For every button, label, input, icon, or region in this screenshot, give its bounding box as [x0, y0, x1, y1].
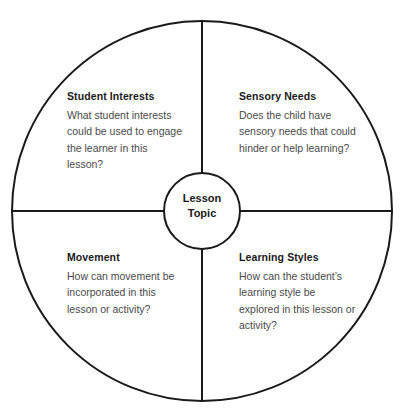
quadrant-movement: Movement How can movement be incorporate… [67, 251, 227, 317]
center-hub-label: Lesson Topic [164, 191, 240, 220]
lesson-planning-wheel-diagram: Student Interests What student interests… [0, 0, 404, 419]
cropped-text-artifact [18, 0, 88, 6]
hub-label-line-1: Lesson [164, 191, 240, 206]
quadrant-learning-styles: Learning Styles How can the student’s le… [239, 251, 399, 333]
quadrant-student-interests: Student Interests What student interests… [67, 90, 227, 172]
quadrant-heading: Student Interests [67, 90, 227, 102]
quadrant-heading: Learning Styles [239, 251, 399, 263]
quadrant-body: How can movement be incorporated in this… [67, 268, 185, 317]
quadrant-heading: Movement [67, 251, 227, 263]
hub-label-line-2: Topic [164, 206, 240, 221]
quadrant-body: How can the student’s learning style be … [239, 268, 357, 333]
quadrant-heading: Sensory Needs [239, 90, 399, 102]
quadrant-body: Does the child have sensory needs that c… [239, 107, 357, 156]
quadrant-body: What student interests could be used to … [67, 107, 185, 172]
quadrant-sensory-needs: Sensory Needs Does the child have sensor… [239, 90, 399, 156]
